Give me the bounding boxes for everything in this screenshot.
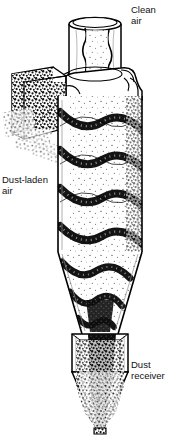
diagram-artwork (2, 18, 142, 435)
label-dust-receiver: Dust receiver (131, 359, 165, 381)
label-dust-receiver-line1: Dust (131, 359, 165, 370)
label-dust-laden-air: Dust-laden air (2, 174, 48, 196)
cyclone-cylinder-body (58, 96, 142, 252)
label-clean-air-line2: air (131, 15, 156, 26)
cyclone-cone-section (58, 252, 142, 334)
label-dust-laden-air-line1: Dust-laden (2, 174, 48, 185)
label-clean-air: Clean air (131, 4, 156, 26)
dust-receiver (72, 334, 128, 434)
cyclone-top-shoulder (58, 67, 142, 100)
label-dust-laden-air-line2: air (2, 185, 48, 196)
label-dust-receiver-line2: receiver (131, 370, 165, 381)
label-clean-air-line1: Clean (131, 4, 156, 15)
